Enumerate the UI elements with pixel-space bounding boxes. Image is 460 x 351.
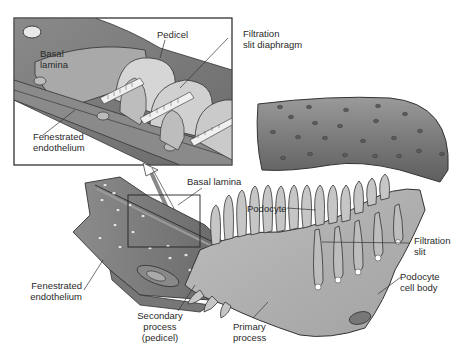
label-podocyte: Podocyte [247, 203, 287, 214]
label-podocyte-cell-body: Podocyte cell body [400, 271, 440, 293]
label-pedicel-inset: Pedicel [157, 29, 188, 40]
capillary-tube [257, 97, 448, 182]
label-fenestrated-endothelium-inset: Fenestrated endothelium [33, 131, 85, 153]
label-basal-lamina-inset: Basal lamina [40, 48, 68, 70]
label-primary-process: Primary process [233, 321, 266, 343]
label-filtration-slit: Filtration slit [414, 235, 450, 257]
label-fenestrated-endothelium-main: Fenestrated endothelium [30, 280, 82, 302]
label-basal-lamina-main: Basal lamina [187, 176, 241, 187]
label-secondary-process: Secondary process (pedicel) [132, 310, 188, 343]
podocyte [185, 174, 425, 336]
label-filtration-slit-diaphragm: Filtration slit diaphragm [243, 28, 302, 50]
